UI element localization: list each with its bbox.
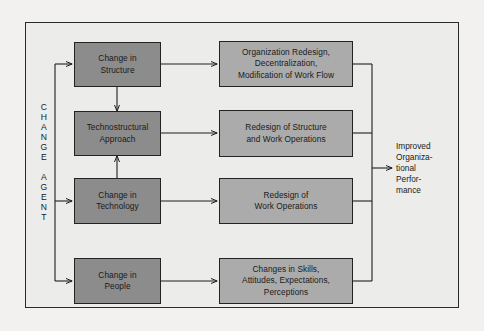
node-label: Change in People [95, 270, 139, 292]
node-technostructural-approach[interactable]: Technostructural Approach [74, 111, 161, 156]
node-change-in-people[interactable]: Change in People [74, 258, 161, 304]
change-agent-label: C H A N G E A G E N T [37, 103, 51, 223]
node-change-in-technology[interactable]: Change in Technology [74, 178, 161, 224]
node-change-in-structure[interactable]: Change in Structure [74, 42, 161, 87]
node-redesign-of-work-operations[interactable]: Redesign of Work Operations [219, 178, 353, 224]
diagram-root: C H A N G E A G E N T Change in Structur… [0, 0, 484, 331]
node-label: Organization Redesign, Decentralization,… [235, 47, 337, 80]
node-label: Change in Technology [93, 190, 141, 212]
node-label: Redesign of Structure and Work Operation… [242, 122, 329, 144]
node-label: Changes in Skills, Attitudes, Expectatio… [239, 264, 333, 297]
node-redesign-of-structure[interactable]: Redesign of Structure and Work Operation… [219, 110, 353, 157]
node-label: Change in Structure [95, 53, 139, 75]
node-label: Redesign of Work Operations [252, 190, 321, 212]
result-improved-organizational-performance: Improved Organiza- tional Perfor- mance [396, 141, 456, 196]
node-label: Technostructural Approach [84, 122, 152, 144]
node-organization-redesign[interactable]: Organization Redesign, Decentralization,… [219, 41, 353, 87]
node-changes-in-skills[interactable]: Changes in Skills, Attitudes, Expectatio… [219, 258, 353, 304]
